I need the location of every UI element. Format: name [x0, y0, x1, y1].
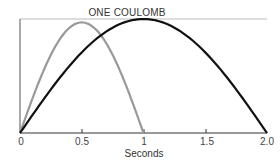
x-axis-label: Seconds	[125, 148, 164, 159]
x-tick-label: 2.0	[260, 136, 274, 147]
series-gray-curve	[20, 22, 144, 133]
chart-title: ONE COULOMB	[88, 7, 165, 18]
x-tick-label: 0	[18, 136, 24, 147]
x-tick-label: 1.5	[200, 136, 214, 147]
x-tick-label: 0.5	[75, 136, 89, 147]
x-tick-label: 1	[141, 136, 147, 147]
coulomb-chart: ONE COULOMB 0 0.5 1 1.5 2.0 Seconds	[0, 0, 280, 160]
series-black-curve	[20, 19, 267, 133]
